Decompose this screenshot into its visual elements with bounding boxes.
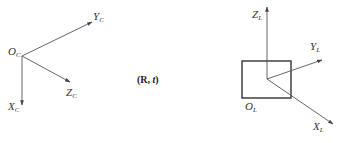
camera-frame: OC YC ZC XC bbox=[7, 10, 104, 114]
lidar-x-axis bbox=[267, 79, 333, 124]
lidar-y-axis bbox=[267, 60, 322, 79]
transform-label: (R, t) bbox=[137, 74, 159, 86]
lidar-z-label: ZL bbox=[252, 8, 262, 22]
lidar-y-label: YL bbox=[310, 40, 320, 54]
lidar-x-label: XL bbox=[312, 120, 324, 134]
camera-z-label: ZC bbox=[66, 86, 77, 100]
coordinate-frames-diagram: OC YC ZC XC (R, t) ZL YL XL OL bbox=[0, 0, 344, 143]
camera-y-label: YC bbox=[93, 10, 104, 24]
camera-origin-label: OC bbox=[8, 45, 21, 59]
lidar-body-box bbox=[242, 61, 291, 98]
camera-y-axis bbox=[22, 22, 92, 56]
camera-x-label: XC bbox=[7, 100, 20, 114]
camera-z-axis bbox=[22, 56, 70, 82]
lidar-frame: ZL YL XL OL bbox=[242, 7, 333, 134]
lidar-origin-label: OL bbox=[245, 100, 257, 114]
